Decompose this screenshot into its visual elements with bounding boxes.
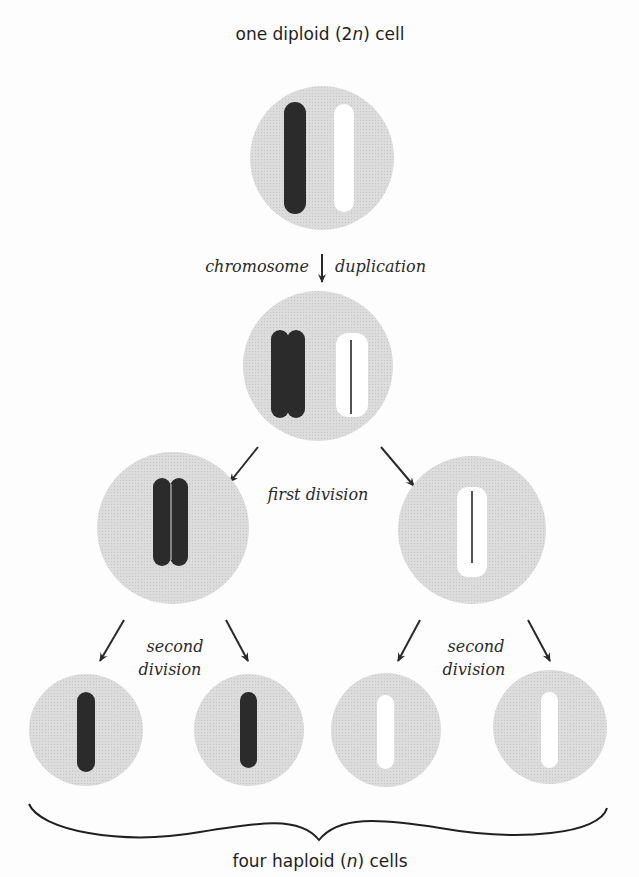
brace xyxy=(29,804,607,840)
haploid-cell-4 xyxy=(493,670,607,784)
first-division-cell-dark xyxy=(97,452,249,604)
diploid-cell xyxy=(250,86,394,230)
haploid-cell-2 xyxy=(194,674,304,786)
arrow-down-left-icon xyxy=(100,620,124,661)
light-chromosome xyxy=(334,104,354,212)
label-chromosome: chromosome xyxy=(205,257,309,276)
title-diploid-cell: one diploid (2n) cell xyxy=(236,24,405,44)
haploid-cell-1 xyxy=(29,674,143,786)
arrow-down-left-icon xyxy=(230,447,258,482)
arrow-down-right-icon xyxy=(381,447,414,486)
arrow-down-right-icon xyxy=(226,620,248,661)
dark-chromosome xyxy=(284,102,306,214)
label-second-division-right-1: second xyxy=(448,637,505,656)
footer-haploid-cells: four haploid (n) cells xyxy=(232,851,407,871)
duplicated-cell xyxy=(243,291,393,441)
label-duplication: duplication xyxy=(335,257,426,276)
label-second-division-right-2: division xyxy=(443,660,506,679)
arrow-down-left-icon xyxy=(398,620,420,661)
label-second-division-left-2: division xyxy=(139,660,202,679)
arrow-down-right-icon xyxy=(528,620,550,661)
label-second-division-left-1: second xyxy=(147,637,204,656)
light-chromosome-double xyxy=(336,333,368,417)
dark-chromatid xyxy=(287,330,305,418)
first-division-cell-light xyxy=(398,456,546,604)
meiosis-diagram: one diploid (2n) cell chromosome duplica… xyxy=(0,0,639,877)
haploid-cell-3 xyxy=(331,673,441,787)
dark-chromatid xyxy=(271,330,289,418)
label-first-division: first division xyxy=(267,485,369,504)
